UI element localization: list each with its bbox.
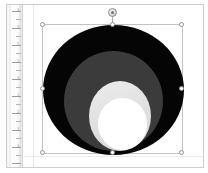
canvas-guide-vertical	[33, 5, 34, 167]
handle-top-center[interactable]	[110, 22, 115, 27]
handle-top-left[interactable]	[40, 22, 45, 27]
handle-top-right[interactable]	[179, 22, 184, 27]
rotate-handle[interactable]	[108, 8, 117, 17]
ruler-tick-major	[12, 163, 21, 164]
ruler-label: 3	[17, 26, 19, 29]
ruler-tick-minor	[16, 121, 21, 122]
handle-bottom-center[interactable]	[110, 150, 115, 155]
selection-bounding-box[interactable]	[42, 24, 183, 154]
app-root: 4 3 2 1 0 1 2 3 4	[0, 0, 208, 173]
core-circle[interactable]	[98, 98, 147, 150]
concentric-circles-shape[interactable]	[43, 25, 182, 153]
ruler-tick-minor	[16, 19, 21, 20]
ruler-tick-minor	[16, 53, 21, 54]
drawing-canvas[interactable]	[24, 5, 203, 167]
ruler-label: 2	[17, 111, 19, 114]
ruler-tick-minor	[16, 87, 21, 88]
canvas-guide-horizontal	[24, 156, 203, 157]
ruler-tick-minor	[16, 155, 21, 156]
ruler-label: 1	[17, 60, 19, 63]
handle-middle-right[interactable]	[179, 86, 184, 91]
ruler-label: 0	[17, 77, 19, 80]
ruler-label: 3	[17, 128, 19, 131]
vertical-ruler[interactable]: 4 3 2 1 0 1 2 3 4	[7, 5, 23, 167]
ruler-label: 4	[17, 145, 19, 148]
ruler-label: 1	[17, 94, 19, 97]
handle-middle-left[interactable]	[40, 86, 45, 91]
handle-bottom-left[interactable]	[40, 150, 45, 155]
ruler-tick-minor	[16, 104, 21, 105]
ruler-tick-minor	[16, 70, 21, 71]
handle-bottom-right[interactable]	[179, 150, 184, 155]
ruler-tick-group	[7, 5, 22, 167]
ruler-tick-minor	[16, 138, 21, 139]
ruler-tick-minor	[16, 36, 21, 37]
ruler-label: 2	[17, 43, 19, 46]
ruler-label: 4	[17, 9, 19, 12]
